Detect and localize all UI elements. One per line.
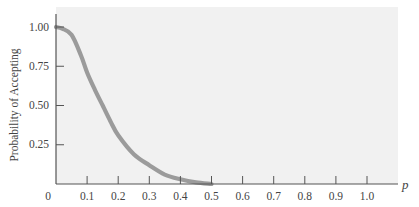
x-tick-label: 0.8: [298, 190, 313, 202]
plot-area: [56, 7, 398, 184]
y-tick-label: 1.00: [29, 21, 49, 33]
x-tick-label: 0.7: [267, 190, 282, 202]
y-tick-label: 0.25: [29, 138, 49, 150]
oc-curve-chart: 1.00 0.75 0.50 0.25 0 0.1 0.2 0.3 0.4 0.…: [0, 0, 419, 207]
y-axis-title: Probability of Accepting: [8, 48, 21, 161]
x-tick-label: 0.2: [111, 190, 126, 202]
x-axis-variable: p: [401, 177, 409, 192]
x-tick-labels: 0 0.1 0.2 0.3 0.4 0.5 0.6 0.7 0.8 0.9 1.…: [45, 190, 374, 202]
y-tick-label: 0.50: [29, 99, 49, 111]
x-tick-label: 0.1: [80, 190, 95, 202]
x-tick-label: 0.6: [235, 190, 250, 202]
y-tick-label: 0.75: [29, 60, 49, 72]
x-tick-label: 0.4: [173, 190, 188, 202]
x-tick-label: 0.5: [204, 190, 219, 202]
x-tick-label: 0.9: [329, 190, 344, 202]
x-tick-label: 0.3: [142, 190, 157, 202]
x-tick-label: 1.0: [360, 190, 375, 202]
origin-label: 0: [45, 190, 51, 202]
y-tick-labels: 1.00 0.75 0.50 0.25: [29, 21, 49, 150]
